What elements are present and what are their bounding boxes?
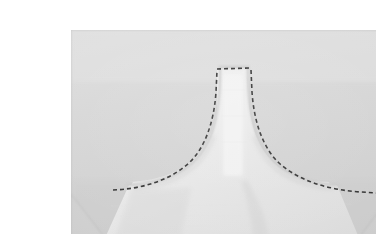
neck-column-highlight <box>223 74 243 176</box>
photograph: Close-up photograph of a pale white fabr… <box>71 30 376 234</box>
page-root: Close-up photograph of a pale white fabr… <box>0 0 376 234</box>
photo-canvas <box>71 30 376 234</box>
